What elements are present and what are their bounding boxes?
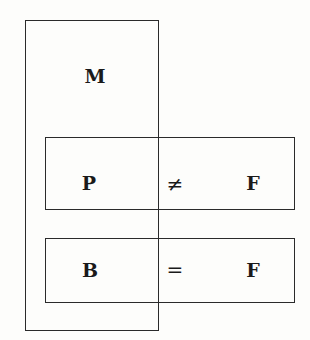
equal-sign: = <box>167 260 184 280</box>
label-p: P <box>82 174 96 193</box>
label-f-lower: F <box>246 261 260 280</box>
label-f-upper: F <box>246 174 260 193</box>
label-b: B <box>82 261 98 280</box>
label-m: M <box>84 67 105 86</box>
not-equal-sign: ≠ <box>167 174 184 194</box>
